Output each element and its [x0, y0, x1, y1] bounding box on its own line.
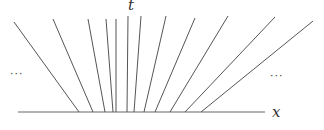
- characteristic-line: [53, 19, 93, 112]
- characteristic-line: [144, 16, 166, 112]
- characteristic-line: [106, 19, 113, 112]
- t-axis-label: t: [128, 0, 134, 13]
- characteristic-line: [201, 21, 313, 112]
- characteristic-line: [155, 18, 195, 112]
- characteristic-line: [88, 19, 105, 112]
- ellipsis-left: ···: [10, 68, 24, 79]
- characteristic-line: [134, 16, 141, 112]
- characteristic-lines: [14, 16, 313, 112]
- characteristic-line: [127, 16, 128, 112]
- characteristic-line: [14, 22, 79, 112]
- ellipsis-right: ···: [270, 70, 284, 81]
- x-axis-label: x: [272, 105, 280, 120]
